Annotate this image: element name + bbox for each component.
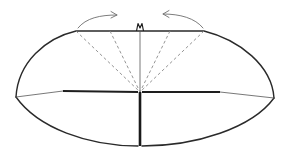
left-fold-arrow-icon bbox=[78, 12, 117, 29]
valley-fold-line bbox=[140, 31, 204, 92]
fold-diagram bbox=[0, 0, 288, 152]
lower-right-outline bbox=[142, 98, 274, 146]
left-thin-edge bbox=[16, 91, 63, 97]
valley-fold-line bbox=[76, 31, 140, 92]
right-thin-edge bbox=[220, 92, 274, 98]
left-flap-edge bbox=[63, 91, 138, 92]
upper-outline bbox=[16, 31, 274, 98]
pocket-mark-icon bbox=[137, 24, 144, 32]
lower-left-outline bbox=[16, 97, 138, 146]
right-fold-arrow-icon bbox=[163, 11, 203, 29]
valley-fold-line bbox=[110, 31, 140, 92]
valley-fold-line bbox=[140, 31, 170, 92]
